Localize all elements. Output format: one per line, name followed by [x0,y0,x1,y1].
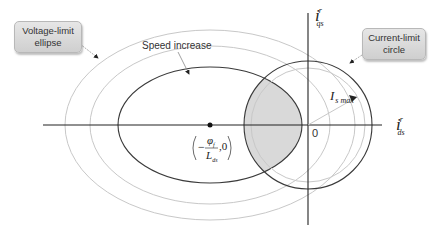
d-axis-label: irds [396,115,411,135]
center-minus: − [198,140,205,155]
q-axis-label: irqs [315,6,330,26]
q-axis-superscript: r [319,6,322,15]
d-axis-subscript: ds [398,128,405,137]
current-callout-line1: Current-limit [368,32,420,44]
current-callout-pointer [350,55,362,63]
speed-increase-arrow [178,52,189,74]
voltage-callout-pointer [80,44,98,58]
voltage-callout-line1: Voltage-limit [22,25,74,37]
voltage-callout-line2: ellipse [22,37,74,49]
center-label-right-paren [228,136,231,160]
d-axis-superscript: r [400,115,403,124]
ismax-subscript: s max [335,96,353,105]
ellipse-center-dot [208,123,213,128]
speed-increase-label: Speed increase [142,40,212,51]
center-label-left-paren [193,136,196,160]
center-numerator: φf [207,134,215,146]
current-limit-callout: Current-limit circle [362,28,426,60]
center-tail: ,0 [219,140,227,152]
center-phi-sub: f [213,142,215,148]
current-callout-line2: circle [368,44,420,56]
voltage-limit-callout: Voltage-limit ellipse [14,21,82,53]
center-denominator: Lds [206,149,217,161]
q-axis-subscript: qs [317,19,324,28]
ismax-label: Is max [330,88,353,104]
center-L-sub: ds [212,157,217,163]
ismax-symbol: I [330,88,334,103]
origin-label: 0 [312,127,318,139]
